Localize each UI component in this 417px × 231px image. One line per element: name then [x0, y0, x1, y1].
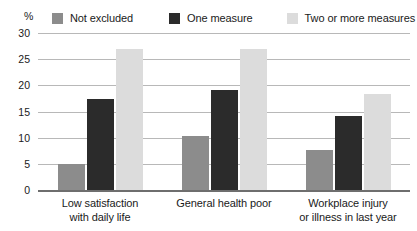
- legend-swatch-icon: [287, 13, 298, 24]
- category-label-line: Low satisfaction: [38, 196, 162, 210]
- bar: [240, 49, 267, 190]
- legend-label: Two or more measures: [305, 12, 415, 24]
- category-label: General health poor: [162, 196, 286, 224]
- legend-item-one-measure: One measure: [169, 11, 253, 25]
- legend-label: Not excluded: [70, 12, 133, 24]
- bar-groups: [38, 33, 410, 190]
- category-label-line: General health poor: [162, 196, 286, 210]
- y-axis-unit-label: %: [24, 10, 33, 22]
- legend-swatch-icon: [169, 13, 180, 24]
- category-label-line: Workplace injury: [286, 196, 410, 210]
- bar: [87, 99, 114, 190]
- y-axis-tick-label: 5: [0, 158, 30, 170]
- y-axis-tick-label: 10: [0, 132, 30, 144]
- bar-group: [286, 33, 410, 190]
- bar: [211, 90, 238, 190]
- legend-item-not-excluded: Not excluded: [52, 11, 133, 25]
- legend-swatch-icon: [52, 13, 63, 24]
- bar: [306, 150, 333, 190]
- bar-chart: % Not excluded One measure Two or more m…: [0, 0, 417, 231]
- y-axis-tick-label: 30: [0, 27, 30, 39]
- bar: [116, 49, 143, 190]
- y-axis-tick-label: 0: [0, 184, 30, 196]
- bar-group: [38, 33, 162, 190]
- plot-area: 302520151050: [38, 33, 410, 190]
- y-axis-tick-label: 15: [0, 106, 30, 118]
- bar: [182, 136, 209, 190]
- legend-item-two-or-more-measures: Two or more measures: [287, 11, 415, 25]
- x-axis-category-labels: Low satisfactionwith daily lifeGeneral h…: [38, 196, 410, 224]
- y-axis-tick-label: 25: [0, 53, 30, 65]
- bar: [364, 94, 391, 190]
- bar: [58, 164, 85, 190]
- category-label: Workplace injuryor illness in last year: [286, 196, 410, 224]
- x-axis-baseline: [38, 190, 410, 192]
- category-label: Low satisfactionwith daily life: [38, 196, 162, 224]
- legend-label: One measure: [187, 12, 253, 24]
- category-label-line: with daily life: [38, 210, 162, 224]
- clipped-caption: [0, 0, 417, 4]
- bar: [335, 116, 362, 190]
- category-label-line: or illness in last year: [286, 210, 410, 224]
- y-axis-tick-label: 20: [0, 79, 30, 91]
- chart-legend: Not excluded One measure Two or more mea…: [52, 11, 415, 25]
- bar-group: [162, 33, 286, 190]
